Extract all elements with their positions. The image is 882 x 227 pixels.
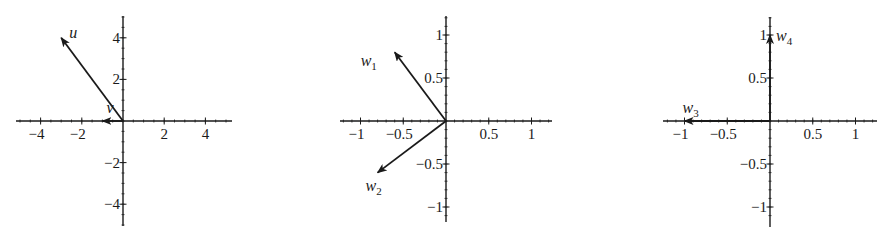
vector-w3: w3 [683,99,771,121]
vector-label: w3 [683,99,700,119]
x-tick-label: 0.5 [479,126,498,142]
y-tick-label: −1 [751,199,767,215]
x-tick-label: −4 [29,126,45,142]
vector-label: v [106,99,114,116]
vector-label: w1 [361,52,377,72]
plot-w3-w4: −1−0.50.51 10.5−0.5−1 w3w4 [663,17,877,227]
x-tick-label: −0.5 [386,126,413,142]
x-tick-label: 2 [160,126,168,142]
x-tick-label: −0.5 [710,126,737,142]
y-tick-label: −0.5 [740,156,767,172]
vector-arrow [395,52,446,121]
x-tick-labels: −1−0.50.51 [673,126,860,142]
x-tick-label: −1 [349,126,365,142]
vector-label: w2 [366,177,382,197]
x-tick-label: 1 [528,126,536,142]
y-tick-label: 0.5 [748,70,767,86]
x-tick-label: 4 [202,126,210,142]
y-tick-label: 2 [113,71,121,87]
y-tick-label: 0.5 [424,70,443,86]
x-tick-label: −1 [673,126,689,142]
vector-w4: w4 [770,27,793,121]
vector-label: w4 [776,27,793,47]
y-tick-label: −0.5 [416,156,443,172]
vector-label: u [69,24,77,41]
vector-w1: w1 [361,52,446,121]
y-tick-label: 1 [436,27,444,43]
y-tick-label: −1 [427,199,443,215]
plot-u-v: −4−224 42−2−4 uv [16,16,232,226]
y-tick-label: 4 [113,30,121,46]
plot-w1-w2: −1−0.50.51 10.5−0.5−1 w1w2 [340,16,552,222]
vectors: w3w4 [683,27,793,121]
x-tick-label: 1 [852,126,860,142]
x-tick-label: 0.5 [803,126,822,142]
y-tick-label: −2 [104,155,120,171]
y-tick-label: −4 [104,196,120,212]
x-tick-labels: −1−0.50.51 [349,126,536,142]
x-tick-labels: −4−224 [29,126,210,142]
x-tick-label: −2 [70,126,86,142]
vector-plots-figure: −4−224 42−2−4 uv −1−0.50.51 10.5−0.5−1 w… [0,0,882,227]
y-tick-label: 1 [760,27,768,43]
